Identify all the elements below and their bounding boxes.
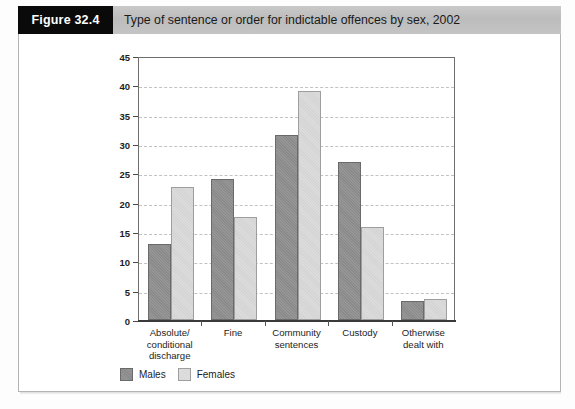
legend-label: Males: [139, 369, 166, 380]
x-axis-category-label: Custody: [328, 327, 391, 339]
x-axis-category-label: Absolute/conditionaldischarge: [138, 327, 201, 362]
x-axis-line: [138, 320, 456, 322]
legend-label: Females: [197, 369, 235, 380]
y-axis-tick-label: 40: [102, 81, 130, 92]
x-axis-category-label: Otherwisedealt with: [392, 327, 455, 350]
bar-males-2: [275, 135, 298, 320]
x-axis-category-line: sentences: [265, 339, 328, 351]
x-axis-category-line: Absolute/: [138, 327, 201, 339]
figure-container: Figure 32.4 Type of sentence or order fo…: [0, 0, 575, 409]
y-axis-tick-mark: [133, 57, 138, 58]
chart-legend: MalesFemales: [120, 368, 235, 381]
figure-title: Type of sentence or order for indictable…: [113, 6, 561, 34]
y-axis-tick-mark: [133, 86, 138, 87]
y-axis-tick-label: 30: [102, 140, 130, 151]
y-axis-tick-mark: [133, 233, 138, 234]
y-axis-tick-mark: [133, 116, 138, 117]
x-axis-category-line: dealt with: [392, 339, 455, 351]
legend-swatch-icon: [120, 368, 133, 381]
panel-shadow: [20, 392, 561, 395]
x-axis-tick-mark: [265, 321, 266, 326]
x-axis-category-line: discharge: [138, 350, 201, 362]
y-axis-tick-label: 15: [102, 228, 130, 239]
x-axis-category-line: Otherwise: [392, 327, 455, 339]
y-axis-tick-label: 45: [102, 52, 130, 63]
legend-swatch-icon: [178, 368, 191, 381]
y-axis-tick-mark: [133, 292, 138, 293]
x-axis-category-line: conditional: [138, 339, 201, 351]
x-axis-category-line: Fine: [201, 327, 264, 339]
bar-males-3: [338, 162, 361, 320]
gridline: [139, 87, 454, 88]
legend-item-males[interactable]: Males: [120, 368, 166, 381]
y-axis-tick-mark: [133, 321, 138, 322]
y-axis-tick-label: 10: [102, 257, 130, 268]
bar-males-0: [148, 244, 171, 320]
bar-males-4: [401, 301, 424, 320]
bar-females-0: [171, 187, 194, 320]
gridline: [139, 117, 454, 118]
x-axis-category-label: Communitysentences: [265, 327, 328, 350]
legend-item-females[interactable]: Females: [178, 368, 235, 381]
x-axis-category-line: Custody: [328, 327, 391, 339]
y-axis-tick-mark: [133, 262, 138, 263]
y-axis-tick-label: 5: [102, 287, 130, 298]
y-axis-tick-mark: [133, 174, 138, 175]
bar-females-1: [234, 217, 257, 320]
x-axis-tick-mark: [392, 321, 393, 326]
y-axis-tick-label: 35: [102, 111, 130, 122]
figure-header: Figure 32.4 Type of sentence or order fo…: [18, 6, 561, 34]
x-axis-category-line: Community: [265, 327, 328, 339]
figure-number-badge: Figure 32.4: [18, 6, 113, 34]
bar-females-4: [424, 299, 447, 320]
plot-area: [138, 57, 455, 321]
y-axis-tick-label: 0: [102, 316, 130, 327]
bar-females-3: [361, 227, 384, 320]
y-axis-tick-label: 20: [102, 199, 130, 210]
y-axis-tick-mark: [133, 204, 138, 205]
y-axis-tick-label: 25: [102, 169, 130, 180]
y-axis-tick-mark: [133, 145, 138, 146]
bar-females-2: [298, 91, 321, 320]
bar-males-1: [211, 179, 234, 320]
x-axis-tick-mark: [201, 321, 202, 326]
x-axis-tick-mark: [328, 321, 329, 326]
x-axis-category-label: Fine: [201, 327, 264, 339]
